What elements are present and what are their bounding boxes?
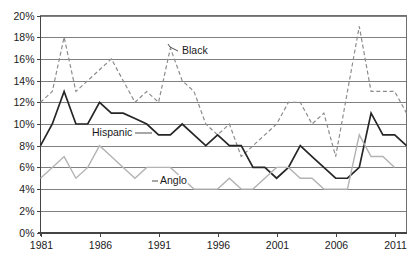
y-axis-tick-label: 4% xyxy=(19,183,34,195)
y-axis-tick-label: 0% xyxy=(19,227,34,239)
x-axis-tick-label: 1991 xyxy=(148,239,172,251)
y-axis-tick-label: 2% xyxy=(19,205,34,217)
gridlines xyxy=(41,17,407,234)
y-axis-tick-label: 14% xyxy=(13,75,34,87)
x-axis: 1981198619911996200120062011 xyxy=(30,233,407,251)
data-series-group xyxy=(41,26,407,189)
x-axis-tick-label: 2011 xyxy=(384,239,407,251)
y-axis: 0%2%4%6%8%10%12%14%16%18%20% xyxy=(13,10,40,239)
x-axis-tick-label: 1981 xyxy=(30,239,54,251)
x-axis-tick-label: 1986 xyxy=(89,239,113,251)
y-axis-tick-label: 18% xyxy=(13,31,34,43)
x-axis-tick-label: 1996 xyxy=(207,239,231,251)
line-chart-figure: 0%2%4%6%8%10%12%14%16%18%20% 19811986199… xyxy=(0,0,417,269)
series-label-hispanic: Hispanic xyxy=(92,126,132,138)
series-line-anglo xyxy=(41,135,395,189)
y-axis-tick-label: 12% xyxy=(13,96,34,108)
series-label-black: Black xyxy=(182,44,208,56)
y-axis-tick-label: 20% xyxy=(13,10,34,22)
y-axis-tick-label: 8% xyxy=(19,140,34,152)
x-axis-tick-label: 2001 xyxy=(266,239,290,251)
series-label-anglo: Anglo xyxy=(160,174,187,186)
y-axis-tick-label: 10% xyxy=(13,118,34,130)
x-axis-tick-label: 2006 xyxy=(325,239,349,251)
y-axis-tick-label: 6% xyxy=(19,161,34,173)
series-annotations: BlackBlackHispanicHispanicAngloAnglo xyxy=(92,44,208,186)
chart-canvas: 0%2%4%6%8%10%12%14%16%18%20% 19811986199… xyxy=(0,0,417,269)
leader-line-black xyxy=(168,44,178,51)
y-axis-tick-label: 16% xyxy=(13,53,34,65)
